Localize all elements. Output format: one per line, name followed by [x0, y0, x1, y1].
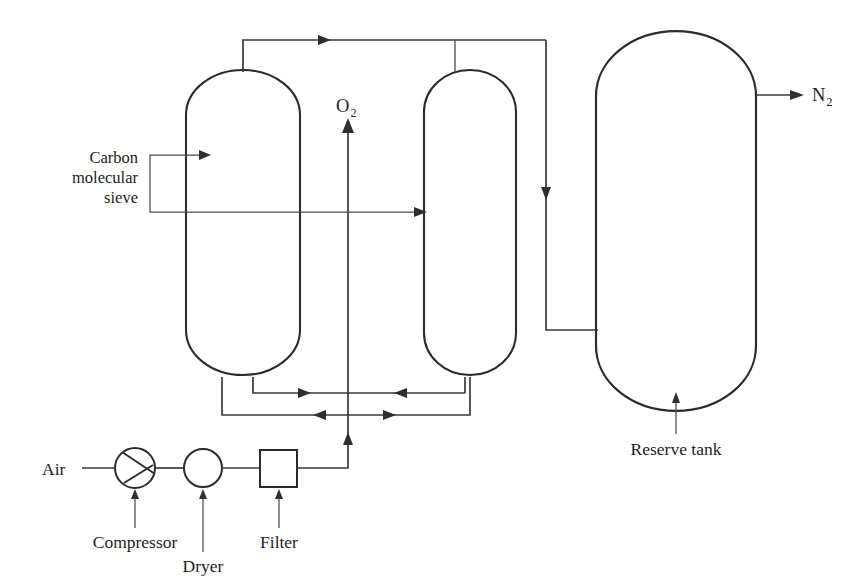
- dryer-symbol: [184, 449, 222, 487]
- arrow-top-header-right: [318, 35, 331, 45]
- label-compressor: Compressor: [93, 532, 178, 552]
- process-flow-diagram: N2 O2 Air: [0, 0, 854, 579]
- arrow-downleg-to-tank: [541, 187, 551, 200]
- label-nitrogen: N2: [812, 85, 832, 109]
- arrow-inner-manifold-left: [394, 388, 407, 398]
- arrow-leader-reserve-tank: [672, 392, 680, 403]
- adsorber-vessel-left: [186, 70, 300, 375]
- pipe-filter-to-manifold: [297, 415, 348, 468]
- label-reserve-tank: Reserve tank: [631, 439, 722, 459]
- arrow-oxygen-vent: [342, 118, 354, 133]
- arrow-leader-filter: [275, 489, 283, 499]
- arrow-inner-manifold-right: [298, 388, 311, 398]
- pipe-header-to-tank: [546, 40, 598, 330]
- arrow-outer-manifold-left: [313, 410, 326, 420]
- label-carbon-molecular-sieve-line3: sieve: [104, 188, 138, 207]
- compressor-wedge-line-2: [124, 465, 153, 483]
- label-oxygen: O2: [336, 96, 356, 120]
- adsorber-vessel-right: [424, 70, 516, 375]
- filter-symbol: [260, 450, 297, 487]
- arrow-leader-compressor: [131, 489, 139, 499]
- arrow-sieve-vessel1: [199, 150, 211, 160]
- arrow-nitrogen-outlet: [790, 90, 804, 100]
- leader-carbon-molecular-sieve: [150, 155, 418, 212]
- arrow-leader-dryer: [199, 489, 207, 499]
- pipe-inner-manifold: [253, 377, 465, 393]
- label-carbon-molecular-sieve-line2: molecular: [72, 168, 138, 187]
- label-air: Air: [42, 459, 66, 479]
- reserve-tank: [596, 31, 756, 411]
- arrow-feed-riser: [343, 432, 353, 445]
- arrow-outer-manifold-right: [383, 410, 396, 420]
- flowsheet-canvas: N2 O2 Air: [0, 0, 854, 579]
- pipe-outer-manifold: [222, 377, 470, 415]
- label-dryer: Dryer: [183, 556, 224, 576]
- label-filter: Filter: [260, 532, 298, 552]
- label-carbon-molecular-sieve-line1: Carbon: [89, 148, 138, 167]
- pipe-vessel1-top-riser: [243, 40, 546, 72]
